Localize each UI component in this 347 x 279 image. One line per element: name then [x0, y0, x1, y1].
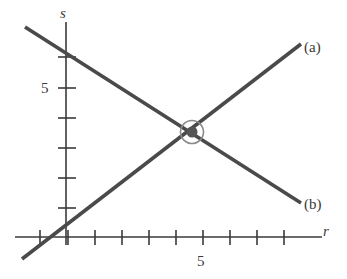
axis-lines [15, 22, 322, 245]
curve-b-label: (b) [304, 197, 322, 212]
x-axis-label: r [323, 224, 329, 239]
intersection-dot [187, 127, 198, 138]
y-axis-tick-label-5: 5 [41, 81, 49, 96]
y-axis-ticks [58, 57, 76, 208]
line-graph-figure: s r 5 5 (a) (b) [0, 0, 347, 279]
curve-a-label: (a) [304, 40, 321, 55]
y-axis-label: s [60, 6, 66, 21]
plot-area [0, 0, 347, 279]
curve-a-line [22, 44, 301, 259]
x-axis-tick-label-5: 5 [197, 254, 205, 269]
